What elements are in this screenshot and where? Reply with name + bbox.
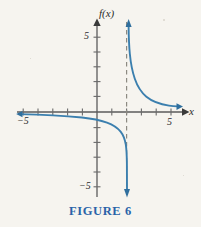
y-axis-label: f(x) [99, 8, 114, 19]
paper-speck-icon [183, 175, 184, 176]
x-tick-label-minus5: −5 [17, 116, 29, 126]
graph-canvas [0, 0, 201, 227]
y-tick-label-5: 5 [84, 31, 89, 41]
x-tick-label-5: 5 [167, 117, 172, 127]
curve-left-branch [20, 114, 128, 190]
paper-speck-icon [30, 58, 31, 59]
figure-caption: FIGURE 6 [0, 205, 201, 219]
curve-right-branch [129, 26, 178, 107]
figure-container: f(x) x −5 5 5 −5 FIGURE 6 [0, 0, 201, 227]
curve-arrowheads [16, 19, 183, 198]
y-tick-label-minus5: −5 [79, 181, 91, 191]
paper-speck-icon [163, 19, 165, 21]
x-axis-label: x [189, 106, 194, 117]
y-axis [93, 19, 100, 198]
